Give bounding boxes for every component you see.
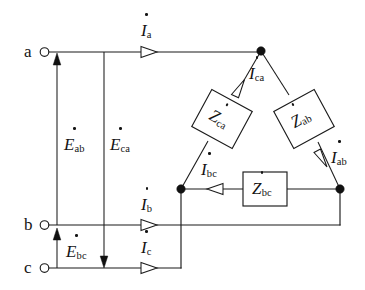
current-iab-subscript: ab <box>337 156 347 167</box>
current-ic-label: Ic <box>141 239 152 258</box>
current-ibc-symbol: I <box>201 161 207 178</box>
current-ib-label: Ib <box>141 196 152 215</box>
current-ica-arrowhead <box>232 80 245 98</box>
terminal-b-ring <box>40 221 49 230</box>
terminal-a-ring <box>40 48 49 57</box>
source-ebc-symbol: E <box>66 243 76 260</box>
impedance-zbc-subscript: bc <box>262 187 272 198</box>
source-ebc-label: Ebc <box>66 243 87 262</box>
current-ibc-label: Ibc <box>201 161 217 180</box>
node-bottom-left-dot <box>177 185 185 193</box>
phasor-dot-ibc <box>208 152 211 155</box>
current-ia-label: Ia <box>141 22 152 41</box>
impedance-zbc-symbol: Z <box>252 180 261 197</box>
current-ibc-arrowhead <box>207 184 223 195</box>
current-ica-symbol: I <box>249 65 255 82</box>
phasor-dot-ib <box>146 187 149 190</box>
source-ebc-subscript: bc <box>77 250 87 261</box>
current-ic-symbol: I <box>141 239 147 256</box>
terminal-b-label: b <box>24 216 33 233</box>
current-ic-subscript: c <box>147 246 152 257</box>
source-eab-label: Eab <box>64 136 85 155</box>
current-ia-subscript: a <box>147 29 152 40</box>
current-iab-label: Iab <box>331 149 347 168</box>
branch-ab-upper <box>261 51 289 95</box>
terminal-c-label: c <box>24 259 32 276</box>
phasor-dot-ica <box>256 56 259 59</box>
terminal-c-ring <box>40 264 49 273</box>
circuit-diagram: a b c Ia Ib Ic Eab Eca Ebc Ica Iab Ibc Z… <box>0 0 365 290</box>
source-eca-subscript: ca <box>121 143 131 154</box>
circuit-svg <box>0 0 365 290</box>
current-ib-subscript: b <box>147 203 152 214</box>
terminal-a-label: a <box>24 43 32 60</box>
source-eab-subscript: ab <box>75 143 85 154</box>
current-ia-arrowhead <box>141 47 157 58</box>
source-eab-arrowhead <box>53 53 61 65</box>
current-ic-arrowhead <box>141 263 157 274</box>
phasor-dot-eab <box>73 127 76 130</box>
current-ib-symbol: I <box>141 196 147 213</box>
phasor-dot-ebc <box>75 234 78 237</box>
current-ib-arrowhead <box>141 220 157 231</box>
source-eca-label: Eca <box>110 136 130 155</box>
current-ica-subscript: ca <box>255 72 265 83</box>
source-eca-symbol: E <box>110 136 120 153</box>
current-ibc-subscript: bc <box>207 168 217 179</box>
node-bottom-right-dot <box>336 185 344 193</box>
impedance-zbc-label: Zbc <box>252 180 272 199</box>
phasor-dot-ia <box>145 13 148 16</box>
current-ica-label: Ica <box>249 65 264 84</box>
phasor-dot-zbc <box>261 171 264 174</box>
phasor-dot-ic <box>145 230 148 233</box>
current-ia-symbol: I <box>141 22 147 39</box>
phasor-dot-iab <box>338 140 341 143</box>
source-eca-arrowhead <box>100 256 108 268</box>
phasor-dot-eca <box>119 127 122 130</box>
source-ebc-arrowhead <box>53 228 61 240</box>
node-top-dot <box>257 47 265 55</box>
source-eab-symbol: E <box>64 136 74 153</box>
current-iab-symbol: I <box>331 149 337 166</box>
